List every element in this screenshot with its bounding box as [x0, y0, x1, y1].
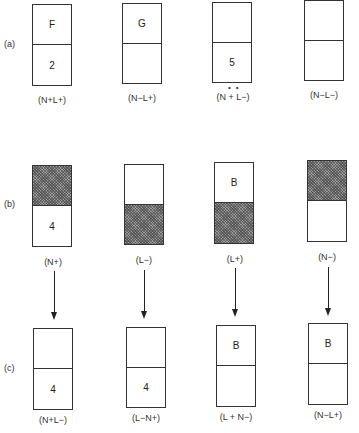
cell-bottom: 4	[127, 368, 165, 408]
caption-c3: (L + N−)	[201, 412, 271, 422]
cell-top	[127, 328, 165, 368]
caption-a1: (N+L+)	[17, 95, 87, 105]
caption-b1: (N+)	[18, 257, 88, 267]
cell-bottom	[308, 201, 346, 241]
cell-box-b1: 4	[32, 165, 72, 247]
row-label-b: (b)	[4, 199, 15, 209]
cell-bottom: 2	[33, 45, 71, 85]
caption-c4: (N−L+)	[293, 410, 359, 420]
cell-bottom	[217, 366, 255, 406]
row-label-c: (c)	[4, 363, 15, 373]
caption-a3: (N + L−)	[198, 92, 268, 102]
cell-top	[213, 3, 251, 43]
cell-top: B	[215, 163, 253, 203]
down-arrow-icon-1	[54, 271, 55, 313]
cell-bottom-shaded	[215, 203, 253, 243]
cell-top: F	[33, 5, 71, 45]
cell-box-a4	[304, 0, 344, 81]
cell-box-a3: 5	[212, 2, 252, 83]
cell-top-shaded	[308, 161, 346, 201]
cell-box-b4	[307, 160, 347, 242]
caption-b2: (L−)	[109, 255, 179, 265]
cell-box-c4: B	[308, 323, 348, 405]
cell-bottom-shaded	[125, 205, 163, 245]
down-arrow-icon-3	[235, 268, 236, 310]
cell-box-b2	[124, 164, 164, 245]
cell-top	[34, 329, 72, 369]
cell-box-c1: 4	[33, 328, 73, 410]
cell-box-a1: F 2	[32, 4, 72, 86]
cell-bottom: 4	[33, 206, 71, 246]
cell-box-c3: B	[216, 325, 256, 407]
cell-top	[125, 165, 163, 205]
cell-top-shaded	[33, 166, 71, 206]
cell-box-c2: 4	[126, 327, 166, 408]
cell-box-b3: B	[214, 162, 254, 244]
caption-b4: (N−)	[292, 252, 359, 262]
umlaut-dots: ••	[228, 85, 244, 91]
down-arrow-icon-4	[328, 267, 329, 309]
cell-top: G	[123, 4, 161, 44]
down-arrow-icon-2	[144, 270, 145, 312]
caption-a4: (N−L−)	[289, 90, 359, 100]
cell-top	[305, 1, 343, 41]
cell-bottom	[309, 364, 347, 404]
row-label-a: (a)	[4, 39, 15, 49]
caption-b3: (L+)	[200, 254, 270, 264]
cell-top: B	[217, 326, 255, 366]
cell-bottom: 4	[34, 369, 72, 409]
cell-top: B	[309, 324, 347, 364]
caption-a2: (N−L+)	[107, 93, 177, 103]
caption-c1: (N+L−)	[18, 415, 88, 425]
cell-box-a2: G	[122, 3, 162, 84]
caption-c2: (L−N+)	[111, 413, 181, 423]
cell-bottom	[305, 41, 343, 81]
cell-bottom	[123, 44, 161, 84]
cell-bottom: 5	[213, 43, 251, 83]
